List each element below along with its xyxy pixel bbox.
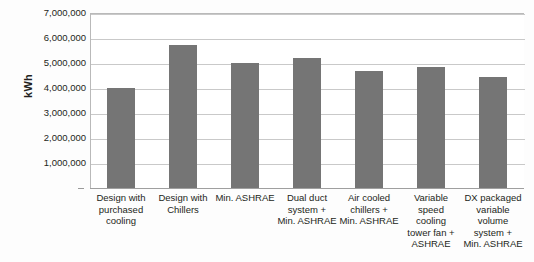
x-axis-category-label: Design with purchased cooling: [90, 192, 152, 227]
bar-chart-figure: kWh 7,000,0006,000,0005,000,0004,000,000…: [0, 0, 534, 262]
bar[interactable]: [107, 88, 135, 188]
bar-slot: [462, 13, 524, 188]
x-axis-category-labels: Design with purchased coolingDesign with…: [90, 192, 524, 262]
bar[interactable]: [169, 45, 197, 188]
y-axis-tick-labels: 7,000,0006,000,0005,000,0004,000,0003,00…: [22, 0, 86, 195]
bar-slot: [214, 13, 276, 188]
y-axis-tick-label: 3,000,000: [22, 108, 86, 118]
bar-slot: [276, 13, 338, 188]
x-axis-category-label: Air cooled chillers + Min. ASHRAE: [338, 192, 400, 227]
bar[interactable]: [355, 71, 383, 188]
y-axis-tick-label: 1,000,000: [22, 158, 86, 168]
bar[interactable]: [293, 58, 321, 188]
x-axis-category-label: DX packaged variable volume system + Min…: [462, 192, 524, 250]
x-axis-category-label: Dual duct system + Min. ASHRAE: [276, 192, 338, 227]
bar[interactable]: [231, 63, 259, 188]
bar-slot: [90, 13, 152, 188]
x-axis-category-label: Design with Chillers: [152, 192, 214, 215]
y-axis-tick-label: 4,000,000: [22, 83, 86, 93]
x-axis-category-label: Variable speed cooling tower fan + ASHRA…: [400, 192, 462, 250]
x-axis-category-label: Min. ASHRAE: [214, 192, 276, 204]
y-axis-tick-label: 6,000,000: [22, 33, 86, 43]
bar[interactable]: [417, 67, 445, 188]
bar[interactable]: [479, 77, 507, 188]
y-axis-tick-label: 2,000,000: [22, 133, 86, 143]
x-axis-line: [90, 188, 524, 189]
bar-slot: [400, 13, 462, 188]
bar-slot: [152, 13, 214, 188]
y-axis-tick-label: 5,000,000: [22, 58, 86, 68]
bar-slot: [338, 13, 400, 188]
y-axis-tick-label: 7,000,000: [22, 8, 86, 18]
y-axis-zero-tick: [78, 188, 84, 189]
bars-layer: [90, 13, 524, 188]
